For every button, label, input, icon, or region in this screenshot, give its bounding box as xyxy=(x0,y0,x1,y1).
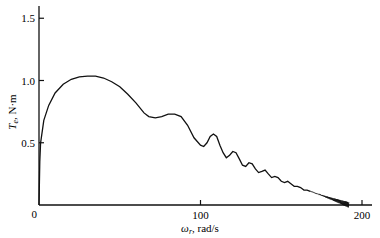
x-axis-title: ωr, rad/s xyxy=(181,222,219,236)
y-tick-label: 1.5 xyxy=(21,12,35,24)
torque-speed-chart: 00.51.01.5 100200 Te, N·m ωr, rad/s xyxy=(0,0,380,238)
y-tick-label: 0 xyxy=(32,208,38,220)
x-tick-label: 200 xyxy=(354,209,371,221)
y-tick-label: 0.5 xyxy=(21,137,35,149)
y-tick-label: 1.0 xyxy=(21,75,35,87)
torque-curve xyxy=(39,76,310,205)
y-axis-title: Te, N·m xyxy=(6,94,20,130)
y-ticks: 00.51.01.5 xyxy=(21,12,44,220)
x-tick-label: 100 xyxy=(192,209,209,221)
